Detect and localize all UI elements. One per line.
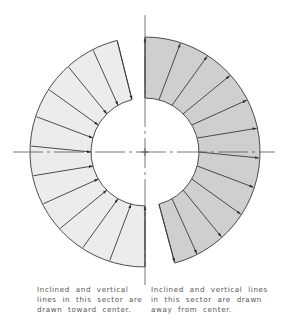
concentric-sector-diagram — [0, 0, 287, 324]
left-sector — [30, 40, 145, 267]
left-sector-fill — [30, 40, 145, 267]
caption-toward-center: Inclined and vertical lines in this sect… — [37, 285, 142, 315]
caption-away-from-center: Inclined and vertical lines in this sect… — [151, 285, 268, 315]
right-sector-fill — [145, 37, 260, 263]
right-sector — [145, 37, 260, 263]
